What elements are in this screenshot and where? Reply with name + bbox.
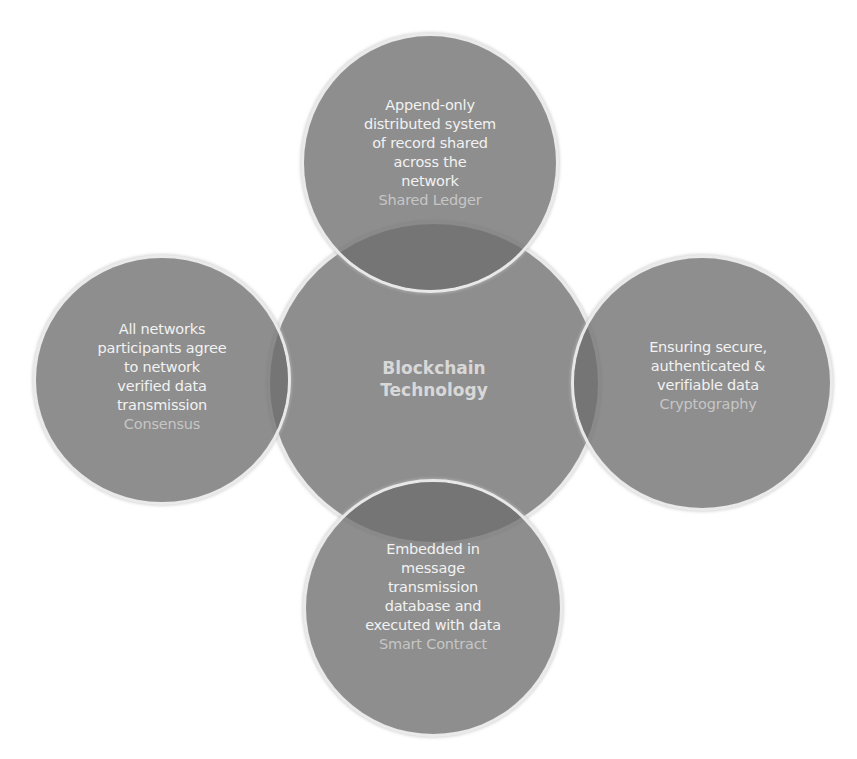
consensus-line: transmission: [52, 396, 272, 415]
cryptography-line: Ensuring secure,: [596, 338, 820, 357]
smart-contract-line: message: [318, 559, 548, 578]
center-title-line2: Technology: [334, 379, 534, 401]
shared-ledger-line: of record shared: [320, 134, 540, 153]
smart-contract-line: Embedded in: [318, 540, 548, 559]
smart-contract-caption: Smart Contract: [318, 635, 548, 654]
shared-ledger-line: distributed system: [320, 115, 540, 134]
smart-contract-label: Embedded in message transmission databas…: [318, 540, 548, 654]
consensus-line: verified data: [52, 377, 272, 396]
consensus-line: participants agree: [52, 339, 272, 358]
center-title: Blockchain Technology: [334, 357, 534, 401]
blockchain-diagram: Blockchain Technology Append-only distri…: [0, 0, 857, 759]
shared-ledger-line: network: [320, 172, 540, 191]
smart-contract-line: executed with data: [318, 616, 548, 635]
consensus-label: All networks participants agree to netwo…: [52, 320, 272, 434]
shared-ledger-caption: Shared Ledger: [320, 191, 540, 210]
smart-contract-line: database and: [318, 597, 548, 616]
cryptography-line: authenticated &: [596, 357, 820, 376]
consensus-caption: Consensus: [52, 415, 272, 434]
center-title-line1: Blockchain: [334, 357, 534, 379]
shared-ledger-line: across the: [320, 153, 540, 172]
cryptography-label: Ensuring secure, authenticated & verifia…: [596, 338, 820, 414]
cryptography-line: verifiable data: [596, 376, 820, 395]
consensus-line: to network: [52, 358, 272, 377]
shared-ledger-line: Append-only: [320, 96, 540, 115]
smart-contract-line: transmission: [318, 578, 548, 597]
shared-ledger-label: Append-only distributed system of record…: [320, 96, 540, 210]
cryptography-caption: Cryptography: [596, 395, 820, 414]
consensus-line: All networks: [52, 320, 272, 339]
